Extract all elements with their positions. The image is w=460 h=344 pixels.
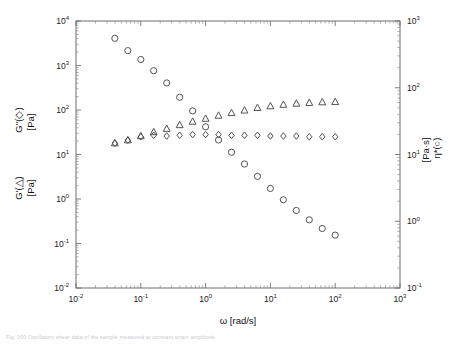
y-right-tick-label: 101 <box>407 149 420 160</box>
data-point-circle <box>280 197 286 203</box>
data-point-diamond <box>320 133 325 140</box>
y-left-tick-label: 10-1 <box>54 238 69 249</box>
y-right-axis-label-eta: η*(○) <box>431 137 442 158</box>
data-point-diamond <box>229 132 234 139</box>
x-tick-label: 10-2 <box>69 293 84 304</box>
series-circle <box>112 35 339 238</box>
y-left-tick-label: 100 <box>56 193 69 204</box>
data-point-diamond <box>294 133 299 140</box>
data-point-diamond <box>307 133 312 140</box>
data-point-triangle <box>215 112 222 118</box>
data-point-triangle <box>293 100 300 106</box>
data-point-circle <box>125 48 131 54</box>
data-point-diamond <box>281 133 286 140</box>
y-left-axis-label-gp-unit: [Pa] <box>25 180 36 197</box>
data-point-circle <box>164 80 170 86</box>
data-point-diamond <box>332 133 337 140</box>
data-point-diamond <box>203 131 208 138</box>
data-point-diamond <box>242 132 247 139</box>
data-point-circle <box>228 149 234 155</box>
data-point-diamond <box>255 132 260 139</box>
data-point-circle <box>254 173 260 179</box>
data-point-circle <box>293 207 299 213</box>
x-tick-label: 103 <box>394 293 407 304</box>
data-point-diamond <box>190 131 195 138</box>
rheology-scatter-plot: 10-210-110010110210310-210-1100101102103… <box>0 0 460 344</box>
series-triangle <box>111 98 338 146</box>
data-point-circle <box>203 124 209 130</box>
data-point-circle <box>241 161 247 167</box>
x-tick-label: 102 <box>329 293 342 304</box>
data-point-circle <box>267 185 273 191</box>
data-point-diamond <box>151 132 156 139</box>
data-point-circle <box>306 217 312 223</box>
x-tick-label: 101 <box>264 293 277 304</box>
data-point-circle <box>332 232 338 238</box>
y-left-tick-label: 102 <box>56 104 69 115</box>
data-point-diamond <box>177 132 182 139</box>
data-point-circle <box>190 108 196 114</box>
data-point-triangle <box>163 125 170 131</box>
data-point-triangle <box>241 107 248 113</box>
data-point-triangle <box>267 102 274 108</box>
data-point-triangle <box>254 104 261 110</box>
data-point-circle <box>319 225 325 231</box>
figure-caption: Fig. 000 Oscillatory shear data of the s… <box>6 333 336 342</box>
y-left-tick-label: 103 <box>56 60 69 71</box>
data-point-circle <box>138 56 144 62</box>
y-right-tick-label: 100 <box>407 216 420 227</box>
y-right-axis-label-eta-unit: [Pa·s] <box>420 138 431 163</box>
series-diamond <box>112 131 338 146</box>
data-point-triangle <box>332 98 339 104</box>
data-point-triangle <box>319 98 326 104</box>
data-point-triangle <box>228 109 235 115</box>
data-point-triangle <box>306 99 313 105</box>
data-point-diamond <box>268 133 273 140</box>
y-left-tick-label: 10-2 <box>54 282 69 293</box>
y-left-axis-label-gp: G'(△) <box>13 176 24 200</box>
data-point-triangle <box>189 118 196 124</box>
x-axis-label: ω [rad/s] <box>220 315 256 326</box>
x-tick-label: 100 <box>199 293 212 304</box>
data-point-triangle <box>202 115 209 121</box>
data-point-circle <box>177 94 183 100</box>
y-left-tick-label: 104 <box>56 15 69 26</box>
plot-frame <box>76 21 400 288</box>
data-point-diamond <box>164 133 169 140</box>
data-point-triangle <box>280 101 287 107</box>
data-point-circle <box>112 35 118 41</box>
y-right-tick-label: 103 <box>407 15 420 26</box>
y-left-axis-label-gpp: G''(◇) <box>13 107 24 132</box>
y-right-tick-label: 102 <box>407 82 420 93</box>
data-point-triangle <box>176 121 183 127</box>
x-tick-label: 10-1 <box>133 293 148 304</box>
y-right-tick-label: 10-1 <box>407 282 422 293</box>
data-point-circle <box>151 68 157 74</box>
figure-panel: 10-210-110010110210310-210-1100101102103… <box>0 0 460 344</box>
y-left-axis-label-gpp-unit: [Pa] <box>25 114 36 131</box>
y-left-tick-label: 101 <box>56 149 69 160</box>
